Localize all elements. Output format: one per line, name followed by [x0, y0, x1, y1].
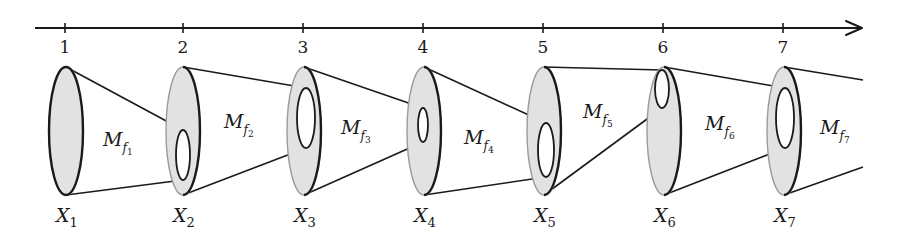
- time-axis: 1234567: [35, 21, 862, 57]
- set-x3: [287, 67, 322, 195]
- set-x5: [527, 67, 562, 195]
- set-x7: [767, 67, 802, 195]
- set-x6: [647, 67, 682, 195]
- label-x3: X3: [292, 204, 316, 230]
- label-x6: X6: [652, 204, 676, 230]
- tick-label: 4: [418, 37, 429, 57]
- image-of-previous-map: [176, 130, 190, 180]
- set-x2: [166, 67, 201, 195]
- tick-label: 1: [60, 37, 71, 57]
- tick-label: 6: [658, 37, 669, 57]
- cone-sequence-diagram: 1234567 X1X2X3X4X5X6X7Mf1Mf2Mf3Mf4Mf5Mf6…: [0, 0, 908, 239]
- tick-label: 7: [778, 37, 789, 57]
- label-x5: X5: [532, 204, 556, 230]
- image-of-previous-map: [655, 70, 669, 108]
- set-x1: [49, 67, 84, 195]
- image-of-previous-map: [776, 88, 794, 148]
- tick-label: 3: [298, 37, 309, 57]
- label-x2: X2: [171, 204, 195, 230]
- image-of-previous-map: [297, 88, 315, 148]
- set-x4: [407, 67, 442, 195]
- image-of-previous-map: [538, 123, 554, 177]
- label-x7: X7: [772, 204, 796, 230]
- diagram-canvas: 1234567 X1X2X3X4X5X6X7Mf1Mf2Mf3Mf4Mf5Mf6…: [0, 0, 908, 239]
- tick-label: 2: [178, 37, 189, 57]
- label-x4: X4: [412, 204, 436, 230]
- label-x1: X1: [54, 204, 78, 230]
- tick-label: 5: [538, 37, 549, 57]
- image-of-previous-map: [418, 108, 428, 142]
